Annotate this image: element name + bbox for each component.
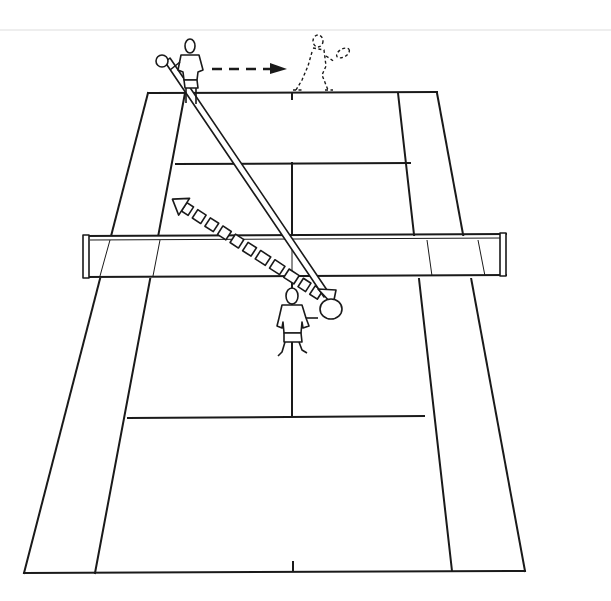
near-service-line	[128, 416, 424, 418]
right-doubles-sideline	[437, 93, 525, 571]
left-net-post	[83, 235, 89, 278]
far-player-shorts	[184, 80, 198, 88]
ghost-racket	[335, 46, 351, 60]
far-player-head	[185, 39, 195, 53]
left-singles-sideline	[95, 93, 185, 573]
net	[83, 233, 506, 278]
far-player-racket	[156, 55, 168, 67]
movement-arrow-head	[270, 63, 287, 74]
diagram-stage	[0, 0, 611, 601]
movement-arrow	[212, 63, 287, 74]
net-top-band	[84, 234, 506, 236]
near-player-shorts	[284, 333, 302, 342]
right-singles-sideline	[398, 93, 452, 571]
tennis-court-diagram	[0, 0, 611, 601]
far-player-ghost	[293, 35, 351, 90]
near-player-head	[286, 288, 298, 304]
near-player-racket	[320, 299, 342, 319]
near-player-torso	[277, 305, 309, 333]
left-doubles-sideline	[24, 93, 148, 573]
near-baseline	[24, 571, 525, 573]
right-net-post	[500, 233, 506, 276]
tennis-court	[24, 92, 525, 573]
